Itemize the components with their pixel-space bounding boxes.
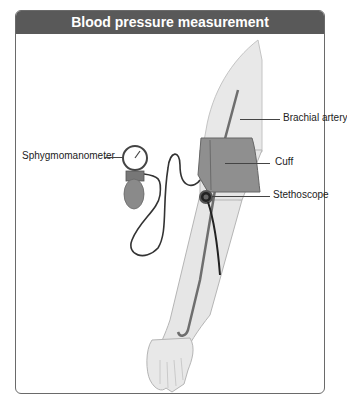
- stethoscope-leader: [212, 196, 270, 197]
- sphygmomanometer-leader: [104, 157, 123, 158]
- label-sphygmomanometer: Sphygmomanometer: [22, 150, 115, 161]
- label-cuff: Cuff: [275, 156, 293, 167]
- inflation-bulb: [124, 179, 144, 209]
- brachial-artery-leader: [240, 119, 280, 120]
- cuff-leader: [225, 163, 270, 164]
- hand: [147, 338, 193, 392]
- forearm: [155, 195, 242, 360]
- upper-arm: [202, 40, 262, 152]
- label-brachial-artery: Brachial artery: [283, 112, 347, 123]
- label-stethoscope: Stethoscope: [273, 189, 329, 200]
- cuff-shape: [198, 138, 260, 192]
